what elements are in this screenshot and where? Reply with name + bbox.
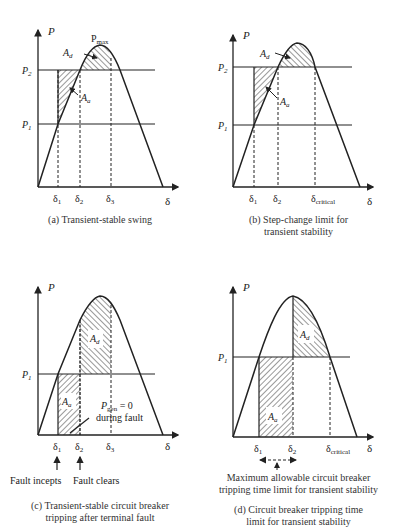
svg-text:during fault: during fault xyxy=(96,412,143,423)
aa-label: Aa xyxy=(80,92,91,105)
svg-text:δcritical: δcritical xyxy=(326,443,350,456)
caption-b: (b) Step-change limit for transient stab… xyxy=(200,214,397,238)
svg-text:δ1: δ1 xyxy=(53,441,62,454)
svg-text:δ1: δ1 xyxy=(254,443,263,456)
ad-label: Ad xyxy=(62,47,73,60)
svg-text:δ2: δ2 xyxy=(75,441,84,454)
caption-b-line1: (b) Step-change limit for xyxy=(200,214,397,226)
svg-text:δ1: δ1 xyxy=(249,193,258,206)
caption-c-line2: tripping after terminal fault xyxy=(0,512,200,524)
caption-d: (d) Circuit breaker tripping time limit … xyxy=(200,504,397,528)
pmax-label: Pmax xyxy=(91,33,109,46)
panel-b: P δ P2 P1 Ad Aa δ1 δ2 δcritical xyxy=(217,29,373,207)
svg-text:δ: δ xyxy=(367,442,372,454)
svg-text:δ2: δ2 xyxy=(75,193,84,206)
svg-text:P2: P2 xyxy=(21,65,32,78)
svg-text:P1: P1 xyxy=(21,369,32,382)
fault-incepts-label: Fault incepts xyxy=(10,475,61,486)
x-axis-label: δ xyxy=(165,195,170,207)
panel-c: P δ P1 Ad Aa Pgen = 0 during fault δ1 δ2… xyxy=(10,281,178,486)
caption-b-line2: transient stability xyxy=(200,226,397,238)
caption-c-line1: (c) Transient-stable circuit breaker xyxy=(0,500,200,512)
svg-text:P: P xyxy=(242,281,250,293)
caption-d-line2: limit for transient stability xyxy=(200,516,397,528)
svg-text:P1: P1 xyxy=(217,120,228,133)
power-angle-diagrams: P δ P2 P1 Pmax Ad Aa δ1 δ2 δ3 P δ P2 P1 … xyxy=(0,0,397,531)
svg-text:P: P xyxy=(242,29,250,41)
note-d-line1: Maximum allowable circuit breaker xyxy=(200,472,397,484)
svg-text:P1: P1 xyxy=(217,352,228,365)
svg-text:δ: δ xyxy=(367,195,372,207)
svg-text:Ad: Ad xyxy=(259,48,270,61)
note-d-line2: tripping time limit for transient stabil… xyxy=(200,484,397,496)
fault-clears-label: Fault clears xyxy=(73,475,119,486)
y-axis-label: P xyxy=(47,25,55,37)
svg-text:δ: δ xyxy=(165,440,170,452)
panel-d: P δ P1 Ad Aa δ1 δ2 δcritical xyxy=(217,281,373,470)
svg-text:δ3: δ3 xyxy=(106,441,115,454)
panel-a: P δ P2 P1 Pmax Ad Aa δ1 δ2 δ3 xyxy=(21,25,178,207)
caption-d-line1: (d) Circuit breaker tripping time xyxy=(200,504,397,516)
svg-text:Aa: Aa xyxy=(279,96,290,109)
caption-a: (a) Transient-stable swing xyxy=(0,214,200,226)
svg-text:δcritical: δcritical xyxy=(311,193,335,206)
svg-text:P: P xyxy=(47,281,55,293)
note-d: Maximum allowable circuit breaker trippi… xyxy=(200,472,397,496)
svg-text:δ2: δ2 xyxy=(273,193,282,206)
svg-text:δ3: δ3 xyxy=(106,193,115,206)
svg-text:δ2: δ2 xyxy=(288,443,297,456)
svg-text:P2: P2 xyxy=(217,62,228,75)
svg-text:δ1: δ1 xyxy=(53,193,62,206)
caption-c: (c) Transient-stable circuit breaker tri… xyxy=(0,500,200,524)
svg-text:P1: P1 xyxy=(21,119,32,132)
